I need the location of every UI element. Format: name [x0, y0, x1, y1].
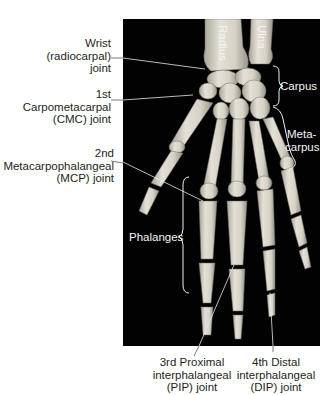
wrist-line-3: joint — [46, 62, 111, 75]
dip-line-2: interphalangeal — [228, 369, 324, 382]
wrist-line-1: Wrist — [46, 37, 111, 50]
mcp-line-1: 2nd — [3, 147, 114, 160]
cmc-line-3: (CMC) joint — [23, 113, 111, 126]
cmc-line-1: 1st — [23, 88, 111, 101]
cmc-joint-label: 1st Carpometacarpal (CMC) joint — [23, 88, 111, 126]
pip-line-1: 3rd Proximal — [144, 356, 240, 369]
mcp-line-2: Metacarpophalangeal — [3, 160, 114, 173]
pip-joint-label: 3rd Proximal interphalangeal (PIP) joint — [144, 356, 240, 394]
dip-line-3: (DIP) joint — [228, 381, 324, 394]
pip-line-3: (PIP) joint — [144, 381, 240, 394]
wrist-joint-label: Wrist (radiocarpal) joint — [46, 37, 111, 75]
mcp-joint-label: 2nd Metacarpophalangeal (MCP) joint — [3, 147, 114, 185]
mcp-line-3: (MCP) joint — [3, 172, 114, 185]
dip-line-1: 4th Distal — [228, 356, 324, 369]
pip-line-2: interphalangeal — [144, 369, 240, 382]
dip-joint-label: 4th Distal interphalangeal (DIP) joint — [228, 356, 324, 394]
wrist-line-2: (radiocarpal) — [46, 50, 111, 63]
cmc-line-2: Carpometacarpal — [23, 101, 111, 114]
